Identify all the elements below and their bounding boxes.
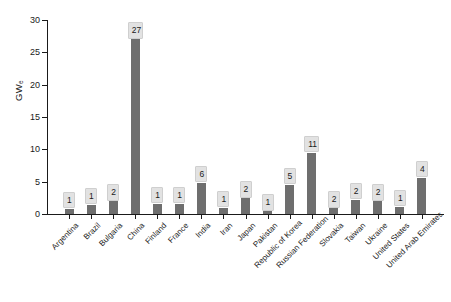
bar bbox=[285, 185, 294, 214]
x-tick bbox=[201, 215, 202, 219]
bar bbox=[395, 207, 404, 214]
bar bbox=[417, 178, 426, 214]
bar-value-label: 2 bbox=[372, 184, 384, 201]
bar bbox=[175, 204, 184, 214]
bar-value-label: 1 bbox=[394, 190, 406, 207]
bar-value-label: 1 bbox=[85, 188, 97, 205]
y-tick bbox=[42, 85, 47, 86]
x-tick bbox=[223, 215, 224, 219]
x-tick bbox=[356, 215, 357, 219]
x-tick bbox=[290, 215, 291, 219]
bar bbox=[65, 209, 74, 214]
bar-value-label: 2 bbox=[328, 191, 340, 208]
bar bbox=[197, 183, 206, 214]
bar bbox=[87, 205, 96, 214]
y-axis-line bbox=[47, 20, 48, 215]
y-tick-label: 20 bbox=[14, 81, 40, 90]
bar bbox=[241, 198, 250, 214]
bar-value-label: 5 bbox=[284, 168, 296, 185]
x-tick bbox=[312, 215, 313, 219]
bar bbox=[329, 208, 338, 214]
y-tick bbox=[42, 20, 47, 21]
bar bbox=[263, 211, 272, 214]
x-tick bbox=[246, 215, 247, 219]
x-tick bbox=[268, 215, 269, 219]
bar-value-label: 2 bbox=[107, 184, 119, 201]
y-tick bbox=[42, 52, 47, 53]
bar-chart: GWe 051015202530 1122711612151122214 Arg… bbox=[0, 0, 451, 302]
bar-value-label: 27 bbox=[128, 22, 143, 39]
bar-value-label: 2 bbox=[350, 183, 362, 200]
x-tick bbox=[113, 215, 114, 219]
y-tick-label: 5 bbox=[14, 178, 40, 187]
x-tick bbox=[422, 215, 423, 219]
bar-value-label: 1 bbox=[262, 194, 274, 211]
y-tick bbox=[42, 117, 47, 118]
y-tick bbox=[42, 182, 47, 183]
y-tick bbox=[42, 149, 47, 150]
bar-value-label: 2 bbox=[240, 181, 252, 198]
y-tick-label: 15 bbox=[14, 113, 40, 122]
bar bbox=[219, 208, 228, 214]
bar-value-label: 1 bbox=[151, 187, 163, 204]
x-tick bbox=[400, 215, 401, 219]
y-tick-label: 30 bbox=[14, 16, 40, 25]
bar bbox=[307, 153, 316, 214]
bar bbox=[351, 200, 360, 214]
bar bbox=[131, 39, 140, 214]
y-tick-label: 10 bbox=[14, 145, 40, 154]
y-tick-label: 25 bbox=[14, 48, 40, 57]
bar bbox=[153, 204, 162, 214]
bar-value-label: 6 bbox=[195, 166, 207, 183]
x-tick bbox=[378, 215, 379, 219]
y-tick bbox=[42, 214, 47, 215]
bar bbox=[109, 201, 118, 214]
bar-value-label: 1 bbox=[217, 191, 229, 208]
x-tick bbox=[179, 215, 180, 219]
x-tick bbox=[135, 215, 136, 219]
x-tick bbox=[334, 215, 335, 219]
bar-value-label: 1 bbox=[63, 192, 75, 209]
y-tick-label: 0 bbox=[14, 210, 40, 219]
bar bbox=[373, 201, 382, 214]
bar-value-label: 4 bbox=[416, 161, 428, 178]
x-tick bbox=[157, 215, 158, 219]
x-tick bbox=[91, 215, 92, 219]
bar-value-label: 11 bbox=[304, 136, 319, 153]
bar-value-label: 1 bbox=[173, 187, 185, 204]
x-tick bbox=[69, 215, 70, 219]
